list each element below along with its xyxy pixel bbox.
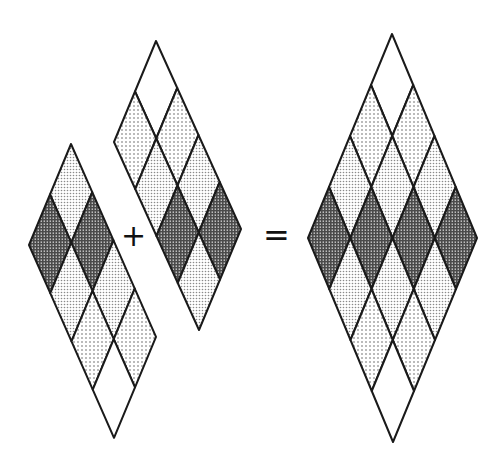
equals-operator: = xyxy=(263,219,290,251)
rhombus-tiling-diagram xyxy=(0,0,501,464)
result-tiling xyxy=(308,34,477,442)
plus-operator: + xyxy=(121,221,146,251)
